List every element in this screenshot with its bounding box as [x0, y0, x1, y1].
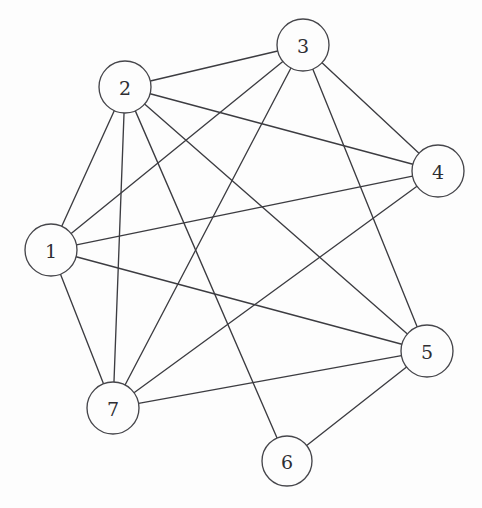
- graph-edge-2-6: [135, 111, 277, 438]
- graph-svg-root: 1234567: [0, 0, 482, 508]
- graph-node-label-2: 2: [119, 77, 131, 99]
- graph-diagram-canvas: 1234567: [0, 0, 482, 508]
- node-layer: 1234567: [25, 19, 464, 486]
- graph-edge-2-3: [150, 51, 277, 81]
- graph-edge-2-5: [145, 104, 408, 334]
- graph-edge-5-7: [139, 356, 402, 404]
- graph-edge-2-7: [114, 113, 124, 382]
- graph-edge-1-7: [61, 274, 104, 384]
- graph-node-label-6: 6: [281, 451, 293, 473]
- graph-edge-1-5: [76, 257, 402, 345]
- graph-node-label-5: 5: [421, 341, 433, 363]
- graph-edge-2-4: [150, 94, 413, 165]
- graph-edge-1-4: [76, 176, 412, 245]
- graph-node-2[interactable]: 2: [99, 61, 151, 113]
- graph-node-3[interactable]: 3: [277, 19, 329, 71]
- graph-edge-5-6: [307, 367, 407, 445]
- graph-node-label-1: 1: [45, 240, 57, 262]
- graph-node-7[interactable]: 7: [87, 382, 139, 434]
- graph-edge-3-4: [322, 63, 419, 154]
- graph-node-1[interactable]: 1: [25, 224, 77, 276]
- graph-node-5[interactable]: 5: [401, 325, 453, 377]
- graph-edge-4-7: [134, 186, 417, 392]
- graph-node-label-4: 4: [432, 161, 444, 183]
- graph-node-6[interactable]: 6: [262, 436, 312, 486]
- graph-edge-3-7: [125, 68, 291, 385]
- graph-node-label-3: 3: [297, 35, 309, 57]
- graph-edge-1-2: [62, 111, 115, 227]
- graph-node-label-7: 7: [107, 398, 119, 420]
- graph-node-4[interactable]: 4: [412, 145, 464, 197]
